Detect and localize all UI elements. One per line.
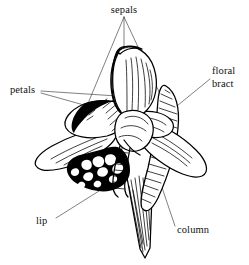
label-lip: lip xyxy=(36,215,47,226)
label-sepals: sepals xyxy=(111,4,137,15)
label-floral-bract-line1: floral xyxy=(212,65,235,76)
label-floral-bract-line2: bract xyxy=(212,78,234,89)
orchid-diagram-figure: sepals petals floral bract lip column xyxy=(0,0,249,265)
label-column: column xyxy=(177,224,210,235)
label-petals: petals xyxy=(10,84,35,95)
orchid-illustration-canvas: sepals petals floral bract lip column xyxy=(0,0,249,265)
